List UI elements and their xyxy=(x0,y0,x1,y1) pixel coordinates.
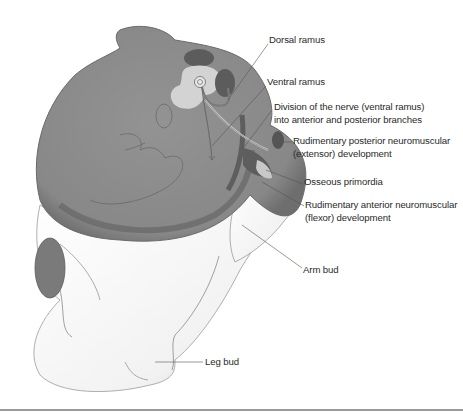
label-division-of-nerve: Division of the nerve (ventral ramus) in… xyxy=(274,100,424,126)
label-line: into anterior and posterior branches xyxy=(274,113,424,126)
leg-bud-cut-end xyxy=(35,238,65,298)
label-line: Rudimentary posterior neuromuscular xyxy=(293,134,450,147)
bottom-rule xyxy=(0,409,463,411)
label-line: Rudimentary anterior neuromuscular xyxy=(305,198,457,211)
dermomyotome xyxy=(184,49,214,67)
label-dorsal-ramus: Dorsal ramus xyxy=(269,33,325,46)
label-line: Ventral ramus xyxy=(267,75,325,88)
label-line: Dorsal ramus xyxy=(269,33,325,46)
label-line: Division of the nerve (ventral ramus) xyxy=(274,100,424,113)
label-line: Leg bud xyxy=(205,355,239,368)
label-rudimentary-posterior: Rudimentary posterior neuromuscular (ext… xyxy=(293,134,450,160)
label-line: (extensor) development xyxy=(293,147,450,160)
label-line: (flexor) development xyxy=(305,211,457,224)
label-line: Arm bud xyxy=(303,263,339,276)
label-leg-bud: Leg bud xyxy=(205,355,239,368)
spinal-cord xyxy=(195,77,206,88)
label-osseous-primordia: Osseous primordia xyxy=(304,175,383,188)
label-line: Osseous primordia xyxy=(304,175,383,188)
label-ventral-ramus: Ventral ramus xyxy=(267,75,325,88)
label-rudimentary-anterior: Rudimentary anterior neuromuscular (flex… xyxy=(305,198,457,224)
label-arm-bud: Arm bud xyxy=(303,263,339,276)
posterior-muscle-mass xyxy=(272,131,284,149)
